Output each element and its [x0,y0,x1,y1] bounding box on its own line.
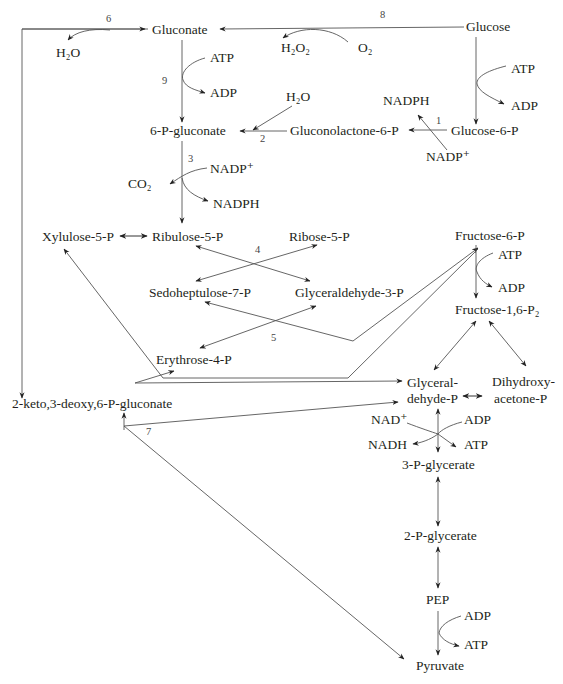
enzyme-number-1: 1 [436,115,441,126]
node-h2o-2: H₂O [286,89,310,104]
node-nadph-1: NADPH [383,93,430,108]
pathway-arrows [22,27,526,659]
node-nadp-1: NADP⁺ [426,149,470,164]
arrow-to-erythrose [135,371,174,383]
arrow-glucose-to-gluconate [220,27,464,29]
metabolite-labels: Gluconate Glucose H₂O H₂O₂ O₂ ATP ADP AT… [12,19,555,673]
node-fructose-6-p: Fructose-6-P [455,228,525,243]
node-glyceraldehyde-p-line2: dehyde-P [407,391,458,406]
node-atp-hk: ATP [511,61,535,76]
node-atp-pk: ATP [464,637,488,652]
node-glucose: Glucose [466,19,510,34]
arrow-to-nadph-3 [182,178,208,201]
enzyme-number-9: 9 [162,75,167,86]
node-sedoheptulose-7-p: Sedoheptulose-7-P [149,285,251,300]
node-glucose-6-p: Glucose-6-P [451,123,519,138]
node-dhap-line2: acetone-P [494,391,547,406]
arrow-atp-to-adp-9 [182,58,205,93]
node-3-p-glycerate: 3-P-glycerate [402,457,475,472]
enzyme-number-5: 5 [271,332,276,343]
node-2-p-glycerate: 2-P-glycerate [404,528,477,543]
arrow-atp-to-adp-pfk [476,253,493,287]
node-nadph-3: NADPH [213,196,260,211]
arrow-xylulose-f6p [64,249,478,378]
arrow-kdpg-to-pyruvate [124,426,404,659]
node-adp-gap: ADP [464,412,491,427]
arrow-f16p2-dhap [489,321,526,366]
node-glyceraldehyde-p-line1: Glyceral- [407,375,458,390]
enzyme-numbers: 6 8 9 1 2 3 4 5 7 [106,9,441,437]
enzyme-number-2: 2 [260,133,265,144]
node-h2o-6: H₂O [56,45,80,60]
enzyme-number-7: 7 [146,426,151,437]
arrow-h2o-2 [253,106,292,130]
node-fructose-1-6-p2: Fructose-1,6-P₂ [455,302,540,317]
node-xylulose-5-p: Xylulose-5-P [42,229,114,244]
arrow-to-glyceraldehyde-p [135,381,402,383]
node-gluconate: Gluconate [152,22,207,37]
node-adp-pk: ADP [464,608,491,623]
node-atp-gap: ATP [464,437,488,452]
arrow-f16p2-gap [434,321,476,370]
node-atp-9: ATP [210,50,234,65]
enzyme-number-8: 8 [380,9,385,20]
arrow-gluconate-to-kdpg [22,29,148,398]
node-6-p-gluconate: 6-P-gluconate [150,123,226,138]
arrow-nadp-to-nadph-1 [418,115,447,150]
node-pyruvate: Pyruvate [416,658,464,673]
metabolic-pathway-diagram: Gluconate Glucose H₂O H₂O₂ O₂ ATP ADP AT… [0,0,563,684]
arrow-to-co2 [170,168,207,184]
node-adp-pfk: ADP [498,280,525,295]
node-atp-pfk: ATP [498,247,522,262]
arrow-adp-to-atp-pk [439,616,461,646]
arrow-atp-to-adp-hk [477,66,506,104]
node-adp-9: ADP [210,85,237,100]
node-adp-hk: ADP [511,98,538,113]
node-nadh: NADH [368,437,407,452]
arrow-to-nadh [413,422,462,444]
node-h2o2: H₂O₂ [281,40,310,55]
node-erythrose-4-p: Erythrose-4-P [156,352,232,367]
node-nad: NAD⁺ [371,412,407,427]
node-nadp-3: NADP⁺ [210,161,254,176]
enzyme-number-6: 6 [106,13,111,24]
arrow-to-h2o [68,29,110,40]
node-pep: PEP [426,592,449,607]
node-ribose-5-p: Ribose-5-P [289,229,350,244]
node-ribulose-5-p: Ribulose-5-P [152,229,223,244]
node-dhap-line1: Dihydroxy- [492,374,555,389]
node-o2: O₂ [358,40,372,55]
enzyme-number-3: 3 [188,153,193,164]
node-gluconolactone-6-p: Gluconolactone-6-P [290,123,399,138]
node-co2: CO₂ [128,176,151,191]
node-kdpg: 2-keto,3-deoxy,6-P-gluconate [12,396,172,411]
enzyme-number-4: 4 [255,244,261,255]
node-glyceraldehyde-3-p: Glyceraldehyde-3-P [295,285,404,300]
